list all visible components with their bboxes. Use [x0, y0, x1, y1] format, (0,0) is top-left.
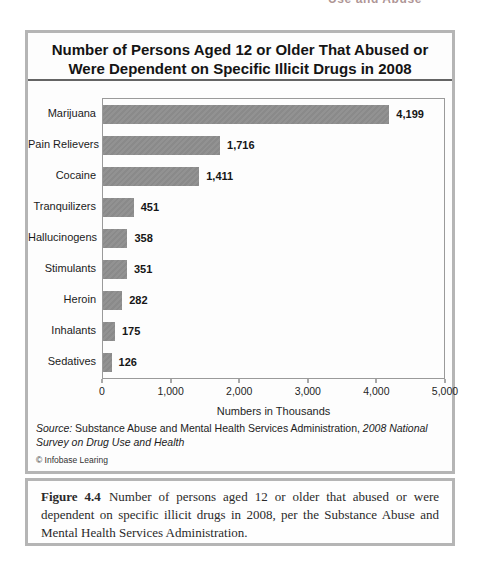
category-label: Heroin [28, 284, 96, 315]
bar [103, 167, 199, 186]
tick-label: 5,000 [432, 385, 458, 397]
bar-row: 4,199 [103, 99, 444, 130]
tick-label: 0 [99, 385, 105, 397]
category-label: Hallucinogens [28, 222, 96, 253]
bar-row: 351 [103, 254, 444, 285]
bar [103, 260, 127, 279]
bar-value-label: 351 [134, 260, 152, 279]
tick-mark [376, 379, 377, 383]
bar-value-label: 1,411 [206, 167, 233, 186]
source-text: Substance Abuse and Mental Health Servic… [72, 422, 363, 434]
bar [103, 322, 115, 341]
source-label: Source: [36, 422, 72, 434]
bar [103, 353, 112, 372]
bar-value-label: 175 [122, 322, 140, 341]
bar-value-label: 282 [129, 291, 147, 310]
bar [103, 198, 134, 217]
category-label: Marijuana [28, 98, 96, 129]
category-label: Pain Relievers [28, 129, 96, 160]
bar-row: 175 [103, 316, 444, 347]
copyright-note: © Infobase Learing [36, 455, 108, 465]
bar-row: 126 [103, 347, 444, 378]
bar-row: 1,716 [103, 130, 444, 161]
running-head-text: Use and Abuse [328, 0, 422, 5]
figure-caption-box: Figure 4.4Number of persons aged 12 or o… [25, 478, 455, 546]
bar [103, 136, 220, 155]
plot-area: 4,1991,7161,411451358351282175126 [102, 98, 445, 379]
tick-label: 4,000 [363, 385, 389, 397]
bar-chart: MarijuanaPain RelieversCocaineTranquiliz… [28, 98, 445, 438]
tick-mark [170, 379, 171, 383]
tick-mark [445, 379, 446, 383]
bar-value-label: 451 [141, 198, 159, 217]
tick-label: 3,000 [295, 385, 321, 397]
bar-row: 451 [103, 192, 444, 223]
x-axis-label: Numbers in Thousands [102, 405, 445, 417]
bar-value-label: 4,199 [396, 105, 424, 124]
category-label: Stimulants [28, 253, 96, 284]
bar-value-label: 126 [119, 353, 137, 372]
bar-value-label: 358 [134, 229, 152, 248]
caption-label: Figure 4.4 [41, 489, 101, 504]
bar-row: 1,411 [103, 161, 444, 192]
title-divider [28, 79, 452, 81]
tick-mark [102, 379, 103, 383]
category-label: Cocaine [28, 160, 96, 191]
tick-mark [307, 379, 308, 383]
bar-value-label: 1,716 [227, 136, 255, 155]
bar-row: 282 [103, 285, 444, 316]
category-label: Tranquilizers [28, 191, 96, 222]
figure-title: Number of Persons Aged 12 or Older That … [32, 40, 448, 78]
bar [103, 229, 127, 248]
category-labels: MarijuanaPain RelieversCocaineTranquiliz… [28, 98, 102, 377]
x-axis: 01,0002,0003,0004,0005,000 [102, 379, 445, 403]
tick-mark [239, 379, 240, 383]
bar [103, 105, 389, 124]
tick-label: 2,000 [226, 385, 252, 397]
figure-box: Number of Persons Aged 12 or Older That … [25, 30, 455, 474]
running-head-fragment: Use and Abuse [328, 0, 422, 5]
category-label: Sedatives [28, 346, 96, 377]
tick-label: 1,000 [157, 385, 183, 397]
category-label: Inhalants [28, 315, 96, 346]
source-note: Source: Substance Abuse and Mental Healt… [36, 422, 448, 449]
scanned-book-page: { "page": { "running_head_fragment": "Us… [0, 0, 480, 562]
bar [103, 291, 122, 310]
bar-row: 358 [103, 223, 444, 254]
